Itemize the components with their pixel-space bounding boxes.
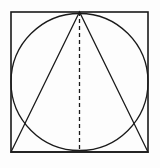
geometry-diagram: [0, 0, 160, 168]
geometry-figure-container: [0, 0, 160, 168]
